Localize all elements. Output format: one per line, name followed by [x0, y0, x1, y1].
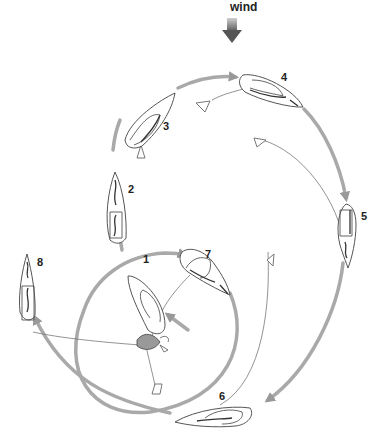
position-label-6: 6	[219, 390, 225, 402]
position-label-4: 4	[281, 71, 288, 83]
kite-7: 7	[180, 248, 230, 295]
kite-2: 2	[107, 172, 134, 243]
kite-1: 1	[128, 253, 165, 334]
position-label-1: 1	[143, 253, 149, 265]
flight-path	[35, 77, 346, 413]
kite-maneuver-diagram: 1 2 3 4 5 6 7 8	[0, 0, 381, 446]
position-label-5: 5	[361, 210, 367, 222]
position-label-2: 2	[128, 183, 134, 195]
wind-arrow-icon	[222, 18, 242, 43]
position-label-7: 7	[205, 248, 211, 260]
kite-lines	[33, 80, 345, 405]
kite-8: 8	[19, 254, 43, 320]
pilot-figure	[137, 334, 169, 352]
position-label-8: 8	[37, 256, 43, 268]
kite-6: 6	[175, 390, 252, 427]
position-label-3: 3	[163, 120, 169, 132]
kite-4: 4	[239, 71, 303, 107]
pull-arrow-icon	[168, 315, 188, 330]
kite-5: 5	[338, 204, 367, 268]
kite-3: 3	[125, 93, 175, 148]
